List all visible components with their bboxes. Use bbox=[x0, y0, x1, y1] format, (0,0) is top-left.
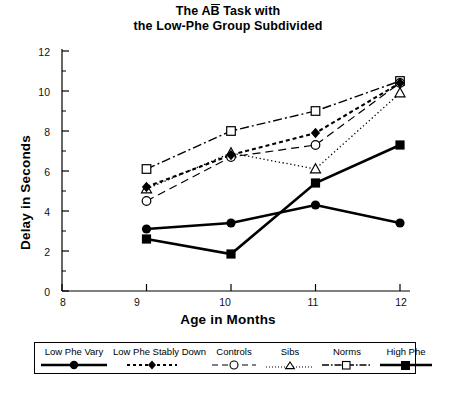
legend-item-low-phe-stably-down[interactable]: Low Phe Stably Down bbox=[113, 343, 206, 373]
data-series-layer bbox=[142, 77, 406, 259]
data-point bbox=[142, 165, 151, 174]
legend-swatch-low-phe-vary bbox=[35, 359, 113, 371]
data-point bbox=[142, 224, 151, 233]
series-controls bbox=[147, 83, 401, 201]
legend-label-low-phe-stably-down: Low Phe Stably Down bbox=[113, 346, 206, 357]
legend-swatch-controls bbox=[206, 359, 262, 371]
legend-swatch-low-phe-stably-down bbox=[113, 359, 206, 371]
data-point bbox=[311, 178, 320, 187]
data-point bbox=[311, 107, 320, 116]
legend-label-high-phe: High Phe bbox=[386, 346, 425, 357]
data-point bbox=[142, 197, 151, 206]
series-low-phe-stably-down bbox=[147, 83, 401, 187]
data-point bbox=[142, 234, 151, 243]
legend-swatch-norms bbox=[318, 359, 376, 371]
legend-item-sibs[interactable]: Sibs bbox=[262, 343, 318, 373]
series-markers-norms bbox=[142, 77, 404, 174]
data-point bbox=[226, 218, 235, 227]
series-high-phe bbox=[147, 145, 401, 254]
legend-label-low-phe-vary: Low Phe Vary bbox=[45, 346, 103, 357]
series-markers-high-phe bbox=[142, 140, 405, 258]
legend-item-high-phe[interactable]: High Phe bbox=[376, 343, 436, 373]
legend-label-controls: Controls bbox=[216, 346, 251, 357]
series-norms bbox=[147, 81, 401, 169]
axes-lines bbox=[62, 49, 410, 291]
series-markers-low-phe-stably-down bbox=[142, 78, 405, 192]
legend-label-norms: Norms bbox=[333, 346, 361, 357]
series-markers-sibs bbox=[142, 88, 406, 193]
chart-figure: The AB Task with the Low-Phe Group Subdi… bbox=[0, 0, 456, 400]
legend-label-sibs: Sibs bbox=[281, 346, 299, 357]
legend-swatch-sibs bbox=[262, 359, 318, 371]
data-point bbox=[311, 164, 321, 173]
data-point bbox=[227, 127, 236, 136]
legend: Low Phe Vary Low Phe Stably Down bbox=[34, 342, 416, 374]
data-point bbox=[311, 200, 320, 209]
legend-item-norms[interactable]: Norms bbox=[318, 343, 376, 373]
data-point bbox=[311, 128, 320, 138]
legend-swatch-high-phe bbox=[376, 359, 436, 371]
plot-area bbox=[0, 0, 456, 400]
legend-item-low-phe-vary[interactable]: Low Phe Vary bbox=[35, 343, 113, 373]
series-sibs bbox=[147, 93, 401, 189]
data-point bbox=[226, 249, 235, 258]
data-point bbox=[395, 218, 404, 227]
data-point bbox=[311, 141, 320, 150]
data-point bbox=[395, 140, 404, 149]
legend-item-controls[interactable]: Controls bbox=[206, 343, 262, 373]
data-point bbox=[395, 88, 405, 97]
series-markers-controls bbox=[142, 79, 404, 206]
